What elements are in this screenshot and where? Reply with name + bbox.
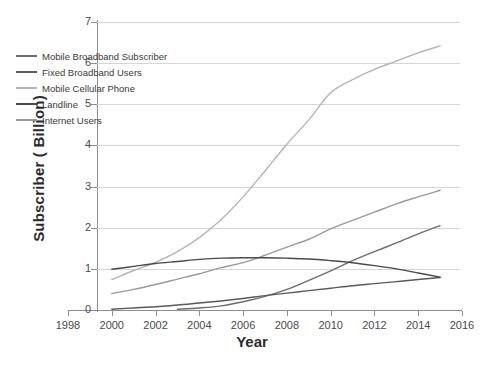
legend-label: Fixed Broadband Users: [42, 67, 142, 78]
x-axis-tick: [331, 311, 332, 316]
x-axis-tick-label: 2012: [353, 319, 395, 331]
x-axis-tick: [68, 311, 69, 316]
legend-label: Landline: [42, 99, 78, 110]
x-axis-tick: [287, 311, 288, 316]
legend-label: Mobile Cellular Phone: [42, 83, 135, 94]
chart-legend: Mobile Broadband SubscriberFixed Broadba…: [16, 48, 167, 128]
legend-item: Fixed Broadband Users: [16, 64, 167, 80]
x-axis-tick-label: 2002: [135, 319, 177, 331]
legend-color-swatch: [16, 87, 37, 89]
x-axis-tick-label: 2014: [397, 319, 439, 331]
legend-item: Mobile Cellular Phone: [16, 80, 167, 96]
x-axis-title: Year: [0, 333, 504, 350]
legend-item: Mobile Broadband Subscriber: [16, 48, 167, 64]
x-axis-tick-label: 2008: [266, 319, 308, 331]
x-axis-tick: [199, 311, 200, 316]
y-axis-tick-label: 4: [73, 139, 91, 150]
x-axis-tick-label: 2010: [310, 319, 352, 331]
y-axis-tick-label: 3: [73, 181, 91, 192]
x-axis-tick-label: 2000: [91, 319, 133, 331]
x-axis-tick: [156, 311, 157, 316]
legend-color-swatch: [16, 119, 37, 121]
x-axis-tick-label: 2016: [441, 319, 483, 331]
legend-label: Internet Users: [42, 115, 102, 126]
x-axis-tick: [462, 311, 463, 316]
y-axis-tick-label: 7: [73, 16, 91, 27]
legend-item: Internet Users: [16, 112, 167, 128]
y-axis-tick-label: 1: [73, 263, 91, 274]
legend-item: Landline: [16, 96, 167, 112]
x-axis-tick-label: 2006: [222, 319, 264, 331]
y-axis-tick-label: 2: [73, 222, 91, 233]
x-axis-tick: [112, 311, 113, 316]
series-line: [177, 226, 440, 310]
legend-color-swatch: [16, 103, 37, 105]
line-chart: Subscriber ( Billion) Year 01234567 1998…: [0, 0, 504, 367]
legend-color-swatch: [16, 55, 37, 57]
x-axis-tick-label: 1998: [47, 319, 89, 331]
x-axis-tick: [418, 311, 419, 316]
x-axis-tick: [374, 311, 375, 316]
x-axis-tick: [243, 311, 244, 316]
series-line: [112, 190, 440, 293]
x-axis-ticks: 1998200020022004200620082010201220142016: [68, 311, 462, 335]
legend-color-swatch: [16, 71, 37, 73]
legend-label: Mobile Broadband Subscriber: [42, 51, 167, 62]
x-axis-tick-label: 2004: [178, 319, 220, 331]
